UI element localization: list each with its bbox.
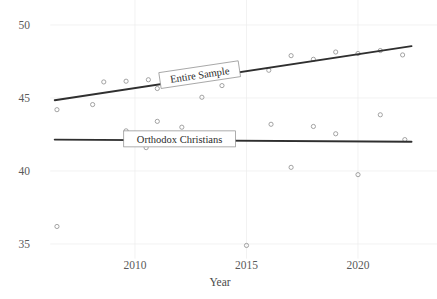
data-point — [55, 108, 59, 112]
data-point — [220, 83, 224, 87]
data-point — [180, 125, 184, 129]
data-point — [124, 79, 128, 83]
data-point — [269, 122, 273, 126]
data-point — [289, 165, 293, 169]
data-point — [155, 119, 159, 123]
chart-container: 35404550201020152020YearEntire SampleOrt… — [0, 0, 437, 299]
data-point — [401, 53, 405, 57]
data-point — [289, 54, 293, 58]
data-point — [334, 50, 338, 54]
series-label-entire-sample: Entire Sample — [159, 61, 241, 89]
y-tick-label: 35 — [19, 238, 31, 250]
data-point — [334, 132, 338, 136]
series-label-text: Orthodox Christians — [137, 134, 222, 145]
series-label-orthodox-christians: Orthodox Christians — [124, 131, 236, 147]
data-point — [155, 86, 159, 90]
data-point — [378, 113, 382, 117]
y-tick-label: 45 — [19, 92, 31, 104]
x-tick-label: 2015 — [235, 259, 258, 271]
data-point — [146, 78, 150, 82]
data-point — [55, 224, 59, 228]
data-point — [91, 102, 95, 106]
y-tick-label: 50 — [19, 19, 31, 31]
data-point — [102, 80, 106, 84]
x-axis-title: Year — [209, 276, 230, 288]
y-tick-label: 40 — [19, 165, 31, 177]
data-point — [200, 95, 204, 99]
x-tick-label: 2020 — [347, 259, 370, 271]
data-point — [311, 124, 315, 128]
x-tick-label: 2010 — [124, 259, 147, 271]
scatter-plot: 35404550201020152020YearEntire SampleOrt… — [0, 0, 437, 299]
